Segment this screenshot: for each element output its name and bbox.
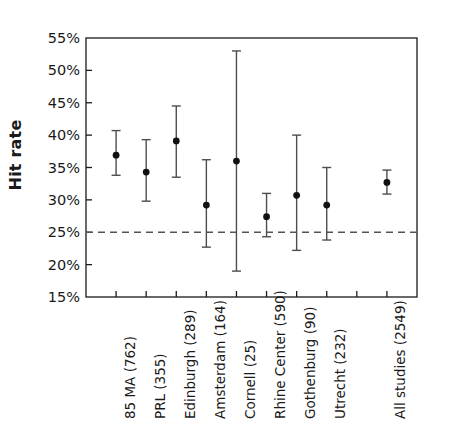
x-axis-tick-label: Edinburgh (289) — [182, 309, 198, 419]
x-axis-tick-label: PRL (355) — [152, 353, 168, 419]
x-axis-tick-label: 85 MA (762) — [122, 336, 138, 419]
x-axis-tick-label: All studies (2549) — [392, 300, 408, 419]
x-axis-tick-label: Utrecht (232) — [332, 328, 348, 419]
hit-rate-forest-plot: Hit rate 55%50%45%40%35%30%25%20%15% 85 … — [0, 0, 464, 435]
x-axis-tick-labels: 85 MA (762)PRL (355)Edinburgh (289)Amste… — [0, 0, 464, 435]
x-axis-tick-label: Cornell (25) — [242, 340, 258, 419]
x-axis-tick-label: Gothenburg (90) — [302, 307, 318, 419]
x-axis-tick-label: Rhine Center (590) — [272, 290, 288, 419]
x-axis-tick-label: Amsterdam (164) — [212, 300, 228, 419]
